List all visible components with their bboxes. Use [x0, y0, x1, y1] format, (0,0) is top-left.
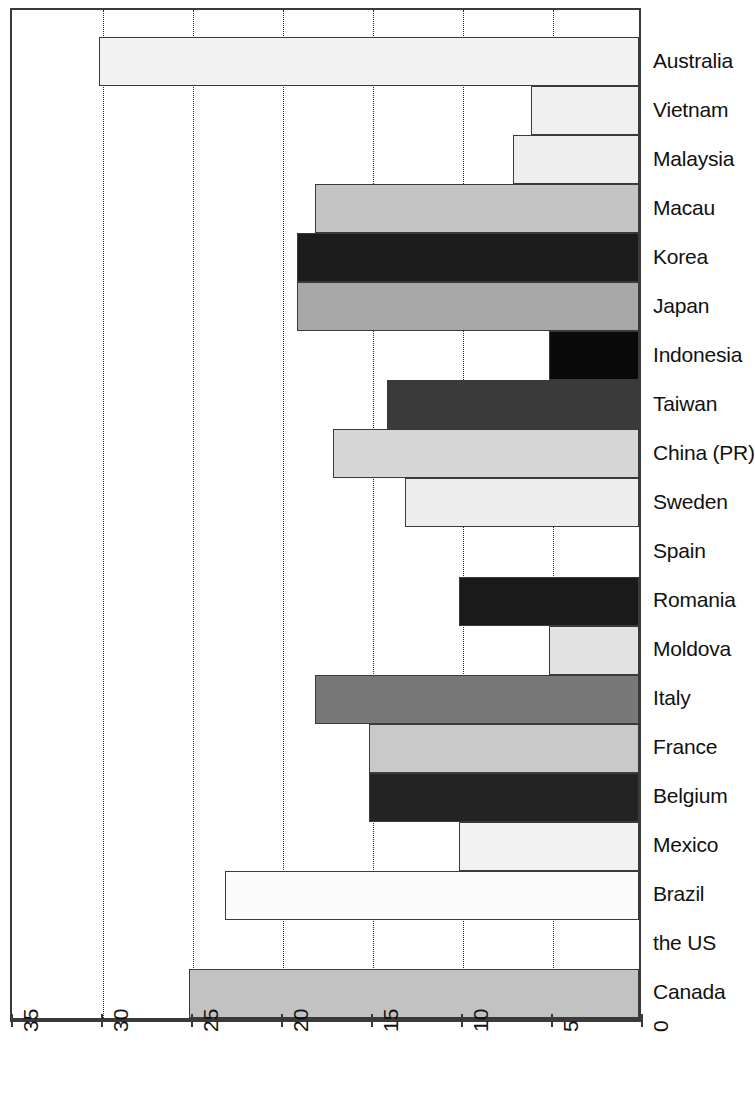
bar-row	[12, 920, 639, 969]
category-labels: AustraliaVietnamMalaysiaMacauKoreaJapanI…	[641, 8, 755, 1020]
bar-china-pr	[333, 429, 639, 478]
bar-row	[12, 577, 639, 626]
bar-canada	[189, 969, 639, 1018]
x-tick-label-0: 0	[650, 1020, 671, 1032]
bar-romania	[459, 577, 639, 626]
category-label-china-pr: China (PR)	[653, 442, 755, 463]
bar-malaysia	[513, 135, 639, 184]
bar-row	[12, 724, 639, 773]
bar-italy	[315, 675, 639, 724]
bar-moldova	[549, 626, 639, 675]
bar-brazil	[225, 871, 639, 920]
plot-area	[10, 8, 641, 1020]
x-tick-label-30: 30	[110, 1009, 131, 1032]
bars-layer	[12, 10, 639, 1018]
bar-taiwan	[387, 380, 639, 429]
bar-row	[12, 871, 639, 920]
bar-row	[12, 135, 639, 184]
category-label-macau: Macau	[653, 197, 715, 218]
x-tick-15	[371, 1014, 373, 1027]
category-label-taiwan: Taiwan	[653, 393, 717, 414]
x-tick-label-15: 15	[380, 1009, 401, 1032]
x-tick-0	[641, 1014, 643, 1027]
x-tick-10	[461, 1014, 463, 1027]
x-tick-25	[191, 1014, 193, 1027]
category-label-france: France	[653, 736, 717, 757]
bar-row	[12, 675, 639, 724]
horizontal-bar-chart: AustraliaVietnamMalaysiaMacauKoreaJapanI…	[0, 0, 755, 1099]
category-label-korea: Korea	[653, 246, 708, 267]
bar-row	[12, 822, 639, 871]
category-label-italy: Italy	[653, 687, 691, 708]
x-tick-20	[281, 1014, 283, 1027]
bar-japan	[297, 282, 639, 331]
bar-indonesia	[549, 331, 639, 380]
category-label-belgium: Belgium	[653, 785, 727, 806]
category-label-canada: Canada	[653, 981, 725, 1002]
category-label-mexico: Mexico	[653, 834, 718, 855]
x-tick-label-5: 5	[560, 1020, 581, 1032]
bar-row	[12, 331, 639, 380]
category-label-sweden: Sweden	[653, 491, 728, 512]
x-tick-label-20: 20	[290, 1009, 311, 1032]
x-tick-5	[551, 1014, 553, 1027]
bar-vietnam	[531, 86, 639, 135]
x-tick-30	[101, 1014, 103, 1027]
x-tick-label-35: 35	[20, 1009, 41, 1032]
category-label-spain: Spain	[653, 540, 706, 561]
bar-macau	[315, 184, 639, 233]
bar-row	[12, 969, 639, 1018]
bar-row	[12, 773, 639, 822]
category-label-indonesia: Indonesia	[653, 344, 742, 365]
bar-mexico	[459, 822, 639, 871]
bar-korea	[297, 233, 639, 282]
category-label-the-us: the US	[653, 932, 716, 953]
category-label-japan: Japan	[653, 295, 709, 316]
bar-france	[369, 724, 639, 773]
category-label-malaysia: Malaysia	[653, 148, 734, 169]
bar-row	[12, 429, 639, 478]
x-axis-line	[10, 1020, 643, 1022]
x-tick-label-10: 10	[470, 1009, 491, 1032]
bar-row	[12, 528, 639, 577]
x-tick-35	[11, 1014, 13, 1027]
bar-row	[12, 478, 639, 527]
category-label-brazil: Brazil	[653, 883, 704, 904]
category-label-romania: Romania	[653, 589, 736, 610]
bar-row	[12, 380, 639, 429]
bar-row	[12, 184, 639, 233]
category-label-vietnam: Vietnam	[653, 99, 728, 120]
bar-row	[12, 282, 639, 331]
category-label-australia: Australia	[653, 50, 733, 71]
category-label-moldova: Moldova	[653, 638, 731, 659]
bar-row	[12, 233, 639, 282]
bar-australia	[99, 37, 639, 86]
bar-sweden	[405, 478, 639, 527]
bar-belgium	[369, 773, 639, 822]
x-tick-label-25: 25	[200, 1009, 221, 1032]
bar-row	[12, 37, 639, 86]
bar-row	[12, 86, 639, 135]
bar-row	[12, 626, 639, 675]
